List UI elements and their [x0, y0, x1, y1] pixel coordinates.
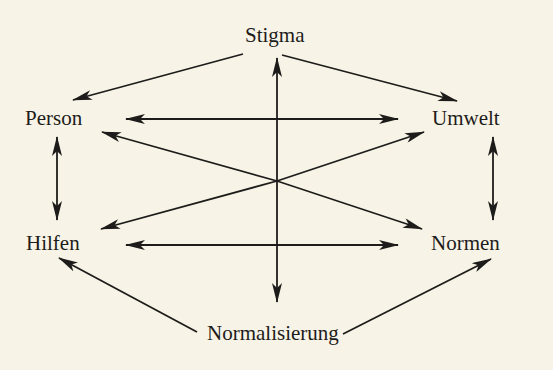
node-normen: Normen — [431, 233, 500, 254]
arrow-center-to-normen — [277, 181, 422, 229]
arrow-center-to-person — [102, 132, 277, 181]
arrow-normalisierung-to-normen — [343, 259, 491, 334]
node-normalisierung: Normalisierung — [207, 323, 339, 344]
node-stigma: Stigma — [245, 25, 305, 46]
arrow-normalisierung-to-hilfen — [59, 258, 197, 332]
arrow-center-to-umwelt — [277, 132, 424, 181]
arrow-stigma-to-umwelt — [282, 55, 457, 101]
node-umwelt: Umwelt — [432, 108, 500, 129]
relationship-diagram: Stigma Person Umwelt Hilfen Normen Norma… — [0, 0, 553, 370]
arrow-center-to-hilfen — [101, 181, 277, 229]
node-hilfen: Hilfen — [26, 233, 80, 254]
arrow-stigma-to-person — [73, 54, 243, 100]
diagram-arrows — [0, 0, 553, 370]
node-person: Person — [25, 108, 82, 129]
